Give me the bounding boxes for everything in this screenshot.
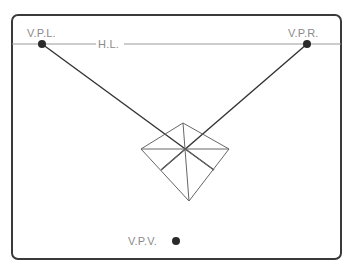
vpr-label: V.P.R. [288, 27, 319, 39]
horizon-label: H.L. [98, 38, 119, 50]
diamond-inner-left [161, 149, 185, 170]
perspective-diagram: H.L. V.P.L. V.P.R. V.P.V. [0, 0, 354, 272]
diamond-inner-right [185, 149, 214, 170]
vpl-point [38, 40, 46, 48]
vpv-label: V.P.V. [128, 235, 157, 247]
diamond-shape [141, 123, 229, 201]
vpr-point [303, 40, 311, 48]
diamond-outline [141, 123, 229, 201]
picture-frame [12, 15, 341, 259]
vpv-point [172, 237, 180, 245]
diamond-vertical-axis [183, 123, 189, 201]
vpl-label: V.P.L. [27, 27, 56, 39]
